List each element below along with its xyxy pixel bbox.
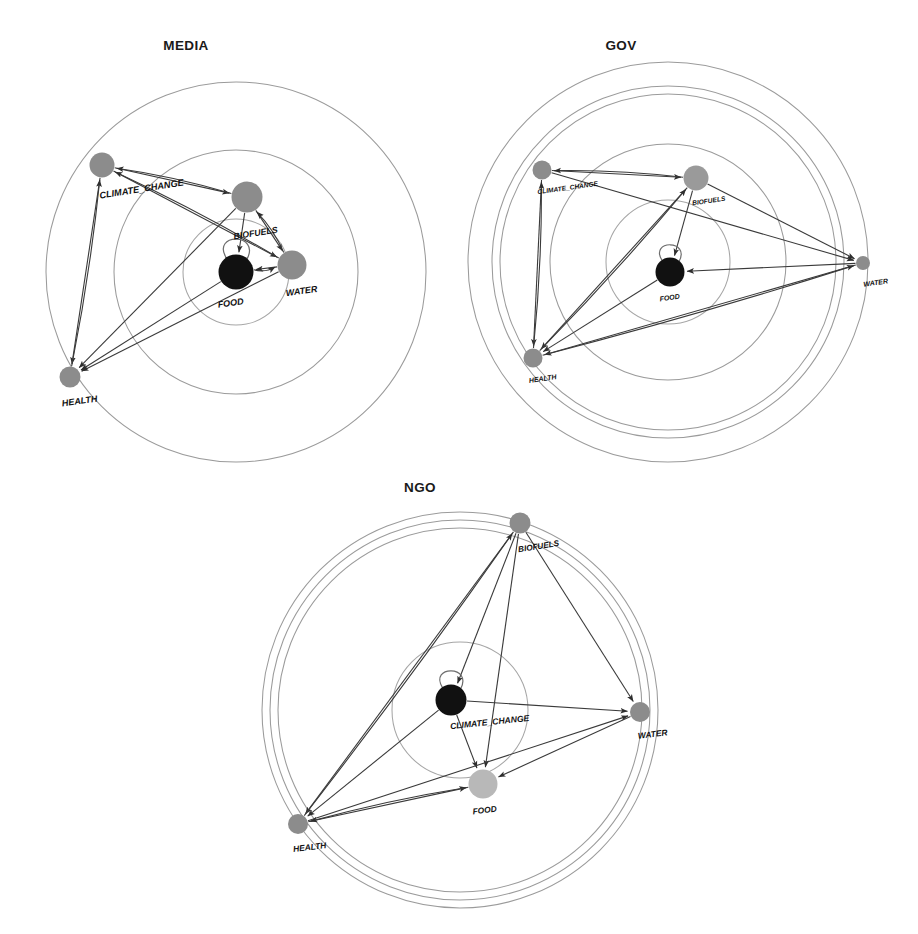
- node-health[interactable]: [60, 367, 81, 388]
- node-water[interactable]: [278, 251, 307, 280]
- node-climate_change[interactable]: [533, 161, 552, 180]
- node-health[interactable]: [288, 814, 308, 834]
- node-label-health: HEALTH: [61, 394, 98, 409]
- node-label-food: FOOD: [217, 296, 245, 310]
- node-label-climate_change: CLIMATE_CHANGE: [537, 180, 599, 196]
- node-food[interactable]: [469, 770, 498, 799]
- node-label-water: WATER: [863, 277, 888, 287]
- panel-title-gov: GOV: [605, 38, 636, 53]
- network-diagram-figure: CLIMATE_CHANGEBIOFUELSFOODWATERHEALTHMED…: [0, 0, 918, 934]
- edge-food-to-health: [543, 280, 657, 352]
- node-biofuels[interactable]: [232, 182, 263, 213]
- edge-biofuels-to-health: [79, 208, 236, 367]
- node-biofuels[interactable]: [684, 166, 709, 191]
- node-health[interactable]: [524, 349, 543, 368]
- node-biofuels[interactable]: [510, 513, 531, 534]
- edge-climate_change-to-water: [467, 701, 628, 711]
- edge-biofuels-to-water: [708, 184, 855, 259]
- edge-health-to-food: [308, 788, 466, 822]
- node-label-biofuels: BIOFUELS: [233, 225, 279, 242]
- edge-biofuels-to-water: [526, 532, 633, 701]
- node-water[interactable]: [856, 256, 870, 270]
- node-food[interactable]: [219, 255, 254, 290]
- edge-climate_change-to-health: [72, 178, 100, 364]
- edge-health-to-water: [308, 716, 628, 821]
- edge-water-to-food: [687, 263, 856, 271]
- edge-water-to-health: [82, 272, 279, 371]
- node-climate_change[interactable]: [436, 685, 467, 716]
- panel-title-media: MEDIA: [163, 38, 209, 53]
- diagram-canvas: CLIMATE_CHANGEBIOFUELSFOODWATERHEALTHMED…: [0, 0, 918, 934]
- node-food[interactable]: [656, 258, 685, 287]
- node-labels: CLIMATE_CHANGEBIOFUELSFOODWATERHEALTH: [61, 177, 318, 408]
- node-label-food: FOOD: [659, 293, 680, 303]
- node-water[interactable]: [630, 702, 650, 722]
- node-climate_change[interactable]: [90, 153, 115, 178]
- node-label-biofuels: BIOFUELS: [692, 195, 727, 207]
- node-label-water: WATER: [637, 727, 668, 741]
- node-label-climate_change: CLIMATE_CHANGE: [450, 713, 530, 731]
- node-labels: BIOFUELSCLIMATE_CHANGEWATERFOODHEALTH: [292, 539, 667, 854]
- edge-water-to-food: [498, 716, 630, 777]
- node-label-climate_change: CLIMATE_CHANGE: [99, 177, 185, 200]
- edges: [304, 532, 633, 822]
- panel-ngo: BIOFUELSCLIMATE_CHANGEWATERFOODHEALTHNGO: [262, 480, 668, 908]
- node-label-water: WATER: [285, 284, 318, 298]
- panel-title-ngo: NGO: [404, 480, 436, 495]
- node-label-food: FOOD: [472, 804, 497, 817]
- panel-media: CLIMATE_CHANGEBIOFUELSFOODWATERHEALTHMED…: [46, 38, 426, 462]
- edge-water-to-health: [545, 265, 856, 355]
- panel-gov: CLIMATE_CHANGEBIOFUELSFOODWATERHEALTHGOV: [468, 38, 888, 462]
